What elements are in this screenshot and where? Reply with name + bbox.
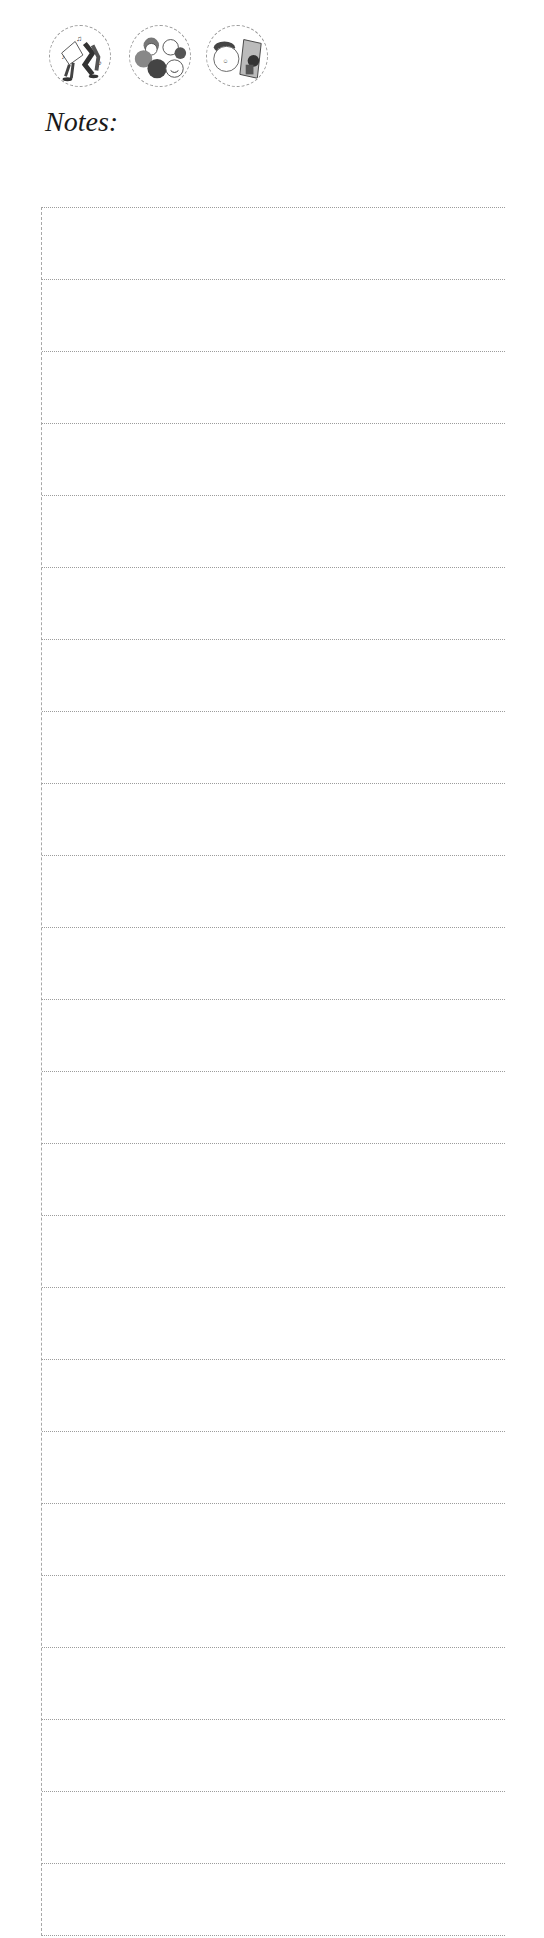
note-line: [42, 1935, 505, 1936]
svg-text:♪: ♪: [62, 53, 65, 60]
note-line: [42, 1503, 505, 1504]
note-line: [42, 1431, 505, 1432]
note-line: [42, 279, 505, 280]
artist-painting-icon: ☺: [206, 25, 268, 87]
header-illustrations: ♫ ♪ ♪ ☺: [0, 0, 544, 100]
note-line: [42, 1647, 505, 1648]
note-line: [42, 783, 505, 784]
note-line: [42, 1791, 505, 1792]
note-line: [42, 1215, 505, 1216]
note-line: [42, 711, 505, 712]
group-of-people-icon: [129, 25, 191, 87]
note-line: [42, 639, 505, 640]
note-line: [42, 495, 505, 496]
dancing-music-icon: ♫ ♪ ♪: [49, 25, 111, 87]
svg-text:♫: ♫: [76, 34, 82, 43]
note-line: [42, 423, 505, 424]
note-line: [42, 207, 505, 208]
note-line: [42, 1719, 505, 1720]
note-line: [42, 1287, 505, 1288]
note-line: [42, 927, 505, 928]
note-line: [42, 1863, 505, 1864]
note-line: [42, 1143, 505, 1144]
note-line: [42, 999, 505, 1000]
note-line: [42, 1071, 505, 1072]
note-line: [42, 1575, 505, 1576]
note-line: [42, 351, 505, 352]
note-line: [42, 1359, 505, 1360]
notes-heading: Notes:: [45, 106, 118, 138]
note-line: [42, 567, 505, 568]
note-line: [42, 855, 505, 856]
notes-lined-area[interactable]: [41, 207, 505, 1936]
svg-text:☺: ☺: [222, 58, 228, 64]
svg-text:♪: ♪: [98, 59, 101, 66]
